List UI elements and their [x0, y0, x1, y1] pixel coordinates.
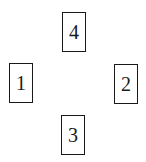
box-left: 1 [9, 63, 33, 103]
box-right: 2 [114, 64, 138, 104]
box-bottom: 3 [61, 115, 85, 155]
box-label: 1 [16, 73, 26, 93]
box-label: 2 [121, 74, 131, 94]
box-top: 4 [62, 12, 86, 52]
box-label: 4 [69, 22, 79, 42]
box-label: 3 [68, 125, 78, 145]
